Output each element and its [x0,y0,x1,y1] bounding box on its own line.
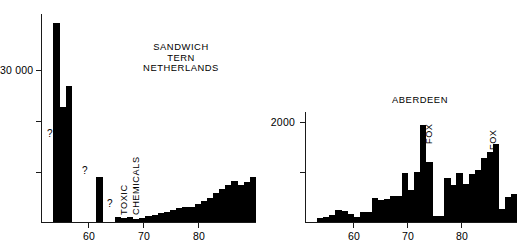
chart-title-aberdeen: ABERDEEN [392,94,448,105]
bar [96,177,102,222]
x-tick-label-80-right: 80 [447,230,477,242]
bar [250,177,256,222]
bar [511,194,517,222]
annotation-fox-2: FOX [488,129,498,150]
x-tick-70-left [143,223,144,228]
annotation-fox-1: FOX [424,123,434,144]
annotation-question-3: ? [107,198,113,209]
x-tick-label-80-left: 80 [184,230,214,242]
annotation-chemicals: CHEMICALS [131,156,141,215]
bar [426,162,432,223]
x-tick-80-right [461,223,462,228]
chart-panel-aberdeen: ABERDEEN 2000 60 70 80 FOX FOX [260,0,517,251]
bar-series-sandwich-tern [41,14,256,222]
x-tick-80-left [198,223,199,228]
x-tick-70-right [407,223,408,228]
x-tick-label-60-right: 60 [339,230,369,242]
bar-series-aberdeen [305,112,517,222]
chart-panel-sandwich-tern: SANDWICH TERN NETHERLANDS 30 000 60 70 8… [0,0,260,251]
x-tick-60-right [353,223,354,228]
x-tick-label-60-left: 60 [74,230,104,242]
annotation-toxic: TOXIC [119,184,129,215]
y-tick-label-30000: 30 000 [0,64,33,76]
x-tick-label-70-left: 70 [129,230,159,242]
figure-root: SANDWICH TERN NETHERLANDS 30 000 60 70 8… [0,0,517,251]
y-tick-label-2000: 2000 [264,116,295,128]
annotation-question-2: ? [82,165,88,176]
x-axis-line-right [305,222,517,223]
x-tick-60-left [88,223,89,228]
bar [66,86,72,222]
x-axis-line-left [41,222,256,223]
annotation-question-1: ? [47,128,53,139]
x-tick-label-70-right: 70 [393,230,423,242]
